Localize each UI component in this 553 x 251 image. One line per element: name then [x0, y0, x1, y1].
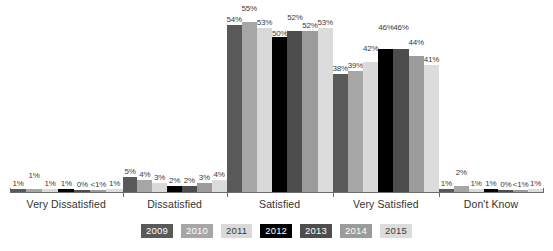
bar: 41% — [424, 65, 439, 192]
legend-item-2015[interactable]: 2015 — [380, 224, 412, 238]
bar-value-label: 1% — [530, 179, 541, 188]
bar: 3% — [197, 183, 212, 192]
bar-slot: 4% — [137, 6, 152, 192]
bar-slot: 46% — [378, 6, 393, 192]
bar-value-label: 3% — [154, 173, 165, 182]
bar-value-label: 38% — [333, 64, 348, 73]
category-label: Dissatisfied — [123, 198, 227, 210]
bar-value-label: 39% — [348, 61, 363, 70]
bar-value-label: <1% — [91, 180, 107, 189]
bar-slot: 3% — [152, 6, 167, 192]
bar: 3% — [152, 183, 167, 192]
bar-value-label: 1% — [29, 171, 40, 180]
bar-groups: 1%1%1%1%0%<1%1%5%4%3%2%2%3%4%54%55%53%50… — [10, 6, 543, 192]
bar-value-label: 0% — [77, 180, 88, 189]
bar-slot: 0% — [498, 6, 513, 192]
legend-swatch-label: 2011 — [221, 224, 252, 238]
bar-slot: 54% — [227, 6, 242, 192]
legend-swatch-label: 2013 — [300, 224, 332, 238]
bar-value-label: 2% — [184, 176, 195, 185]
bar: 53% — [318, 28, 333, 192]
category-label: Very Satisfied — [333, 198, 439, 210]
bar-value-label: 44% — [408, 38, 423, 47]
x-axis-line — [10, 192, 543, 193]
legend-item-2012[interactable]: 2012 — [260, 224, 292, 238]
bar-slot: 2% — [167, 6, 182, 192]
bar: 46% — [378, 49, 393, 192]
bar-slot: 3% — [197, 6, 212, 192]
legend-item-2010[interactable]: 2010 — [181, 224, 213, 238]
legend-item-2013[interactable]: 2013 — [300, 224, 332, 238]
category-labels: Very DissatisfiedDissatisfiedSatisfiedVe… — [10, 198, 543, 210]
bar-value-label: 3% — [199, 173, 210, 182]
category-label: Don't Know — [439, 198, 543, 210]
legend-item-2009[interactable]: 2009 — [141, 224, 173, 238]
bar-value-label: <1% — [513, 180, 529, 189]
bar-value-label: 1% — [12, 179, 23, 188]
bar-slot: 4% — [212, 6, 227, 192]
bar-slot: 1% — [42, 6, 58, 192]
bar: 54% — [227, 25, 242, 192]
bar-slot: <1% — [513, 6, 528, 192]
bar-value-label: 1% — [45, 179, 56, 188]
bar-slot: 2% — [454, 6, 469, 192]
bar-slot: 1% — [26, 6, 42, 192]
legend-swatch-label: 2009 — [141, 224, 173, 238]
bar-value-label: 5% — [124, 167, 135, 176]
bar-value-label: 46% — [393, 23, 408, 32]
legend-item-2011[interactable]: 2011 — [221, 224, 252, 238]
plot-area: 1%1%1%1%0%<1%1%5%4%3%2%2%3%4%54%55%53%50… — [10, 6, 543, 192]
bar-slot: 41% — [424, 6, 439, 192]
bar-value-label: 46% — [378, 23, 393, 32]
bar-value-label: 53% — [317, 18, 332, 27]
bar-group: 54%55%53%50%52%52%53% — [227, 6, 333, 192]
bar-slot: 1% — [439, 6, 454, 192]
bar-value-label: 42% — [363, 44, 378, 53]
bar-slot: 52% — [302, 6, 317, 192]
axis-tick — [333, 192, 334, 197]
bar-slot: 1% — [469, 6, 484, 192]
bar-slot: 2% — [182, 6, 197, 192]
bar: 50% — [272, 37, 287, 192]
bar-value-label: 2% — [456, 168, 467, 177]
bar-slot: 1% — [528, 6, 543, 192]
bar-value-label: 54% — [226, 15, 241, 24]
legend-swatch-label: 2012 — [260, 224, 292, 238]
bar-group: 1%1%1%1%0%<1%1% — [10, 6, 123, 192]
bar-slot: 1% — [106, 6, 122, 192]
bar-slot: 1% — [484, 6, 499, 192]
legend-swatch-label: 2010 — [181, 224, 213, 238]
bar-slot: 1% — [10, 6, 26, 192]
bar-slot: <1% — [90, 6, 106, 192]
bar-slot: 38% — [333, 6, 348, 192]
bar-group: 1%2%1%1%0%<1%1% — [439, 6, 543, 192]
bar: 4% — [212, 180, 227, 192]
bar-value-label: 4% — [214, 170, 225, 179]
bar-value-label: 1% — [61, 179, 72, 188]
bar-slot: 55% — [242, 6, 257, 192]
bar: 42% — [363, 62, 378, 192]
bar: 39% — [348, 71, 363, 192]
bar-slot: 53% — [257, 6, 272, 192]
legend-item-2014[interactable]: 2014 — [340, 224, 372, 238]
axis-tick — [227, 192, 228, 197]
bar-slot: 0% — [74, 6, 90, 192]
bar: 38% — [333, 74, 348, 192]
bar-value-label: 50% — [272, 29, 287, 38]
bar-value-label: 1% — [441, 179, 452, 188]
bar-slot: 42% — [363, 6, 378, 192]
bar: 44% — [409, 56, 424, 192]
bar-slot: 1% — [58, 6, 74, 192]
bar-value-label: 53% — [257, 18, 272, 27]
bar-slot: 50% — [272, 6, 287, 192]
bar-value-label: 1% — [471, 179, 482, 188]
bar-value-label: 52% — [302, 21, 317, 30]
bar-value-label: 41% — [424, 55, 439, 64]
category-label: Satisfied — [227, 198, 333, 210]
bar-value-label: 1% — [109, 179, 120, 188]
bar-value-label: 52% — [287, 13, 302, 22]
axis-tick — [10, 188, 11, 193]
bar: 5% — [123, 177, 138, 193]
bar-slot: 39% — [348, 6, 363, 192]
bar: 55% — [242, 22, 257, 193]
